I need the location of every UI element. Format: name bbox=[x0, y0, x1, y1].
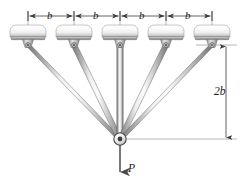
dimension-label-b-4: b bbox=[185, 10, 191, 21]
load-label-p: P bbox=[128, 163, 135, 175]
support-2 bbox=[56, 25, 92, 48]
support-3 bbox=[102, 25, 138, 48]
bar-2 bbox=[71, 44, 123, 140]
dimension-label-b-2: b bbox=[93, 10, 99, 21]
bar-1 bbox=[25, 44, 124, 140]
support-4 bbox=[148, 25, 184, 48]
bar-5 bbox=[117, 44, 216, 140]
support-1 bbox=[10, 25, 46, 48]
dimension-label-2b: 2b bbox=[214, 86, 226, 98]
dimension-label-b-1: b bbox=[47, 10, 53, 21]
bar-4 bbox=[117, 44, 169, 140]
bar-3 bbox=[117, 45, 123, 140]
bar-group bbox=[25, 44, 216, 140]
central-pin-joint bbox=[114, 133, 126, 145]
dimension-label-b-3: b bbox=[139, 10, 145, 21]
support-5 bbox=[194, 25, 230, 48]
figure-drawing bbox=[0, 0, 241, 185]
support-group bbox=[10, 25, 230, 48]
statics-figure: b b b b 2b P bbox=[0, 0, 241, 185]
